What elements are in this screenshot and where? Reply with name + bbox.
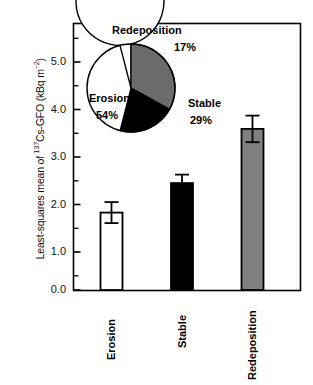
figure-panel: Least-squares mean of 137Cs-GFO (kBq m−2… <box>0 0 313 385</box>
pie-label-erosion: Erosion <box>89 92 130 104</box>
bar-stable <box>171 175 193 290</box>
pie-label-erosion-pct: 54% <box>96 109 118 121</box>
bar-redeposition <box>242 116 264 290</box>
pie-label-redeposition-pct: 17% <box>174 41 196 53</box>
x-tick-label-redeposition: Redeposition <box>246 310 258 380</box>
inset-pie-chart <box>76 0 175 132</box>
pie-label-stable-pct: 29% <box>190 114 212 126</box>
pie-label-redeposition: Redeposition <box>112 24 182 36</box>
plot-svg <box>0 0 313 385</box>
y-major-ticks <box>74 62 81 290</box>
x-tick-label-stable: Stable <box>176 315 188 348</box>
pie-label-stable: Stable <box>188 97 221 109</box>
bar-erosion <box>101 202 123 290</box>
x-tick-label-erosion: Erosion <box>105 319 117 360</box>
